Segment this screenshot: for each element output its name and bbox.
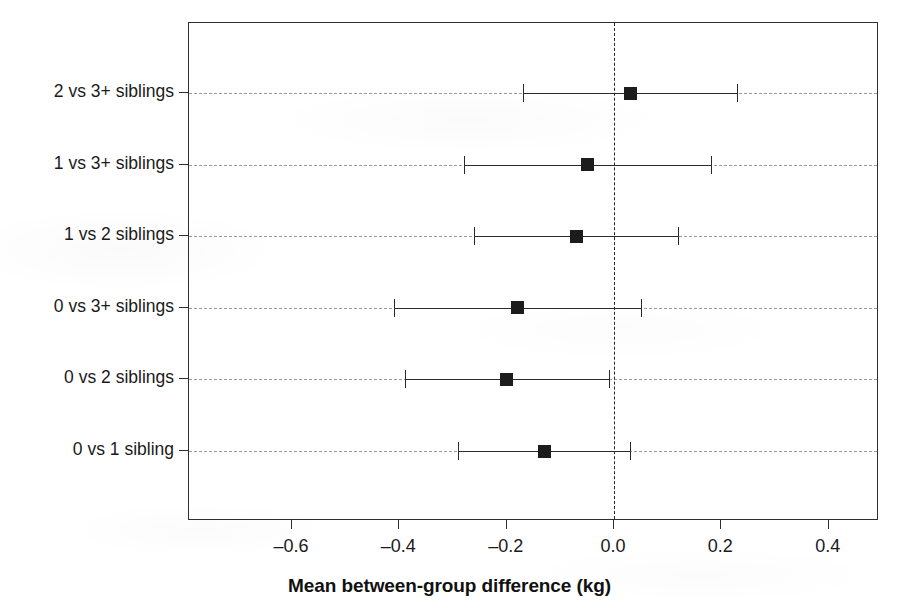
- x-axis-tick: [398, 520, 399, 529]
- ci-cap-low: [464, 156, 465, 174]
- x-axis-title: Mean between-group difference (kg): [0, 575, 899, 597]
- x-axis-tick: [506, 520, 507, 529]
- y-axis-category-label: 2 vs 3+ siblings: [54, 83, 174, 101]
- y-axis-category-label: 1 vs 3+ siblings: [54, 155, 174, 173]
- x-axis-tick-label: –0.2: [466, 537, 546, 555]
- ci-cap-high: [678, 227, 679, 245]
- forest-plot-figure: 2 vs 3+ siblings1 vs 3+ siblings1 vs 2 s…: [0, 0, 899, 615]
- y-axis-category-label: 0 vs 1 sibling: [73, 441, 174, 459]
- ci-cap-high: [641, 299, 642, 317]
- y-axis-tick: [179, 92, 188, 93]
- ci-cap-high: [609, 370, 610, 388]
- y-axis-tick: [179, 164, 188, 165]
- estimate-marker: [581, 158, 594, 171]
- y-axis-category-label: 1 vs 2 siblings: [64, 226, 174, 244]
- x-axis-tick-label: 0.0: [573, 537, 653, 555]
- ci-cap-high: [630, 442, 631, 460]
- ci-cap-low: [458, 442, 459, 460]
- ci-cap-low: [523, 84, 524, 102]
- y-axis-tick: [179, 307, 188, 308]
- ci-cap-low: [474, 227, 475, 245]
- x-axis-tick: [720, 520, 721, 529]
- y-axis-tick: [179, 450, 188, 451]
- x-axis-tick-label: 0.4: [788, 537, 868, 555]
- x-axis-tick-label: –0.4: [358, 537, 438, 555]
- x-axis-tick-label: 0.2: [680, 537, 760, 555]
- ci-cap-high: [711, 156, 712, 174]
- plot-area: [188, 22, 878, 520]
- zero-reference-line-stroke: [614, 23, 615, 519]
- estimate-marker: [500, 373, 513, 386]
- y-axis-tick: [179, 378, 188, 379]
- ci-cap-high: [737, 84, 738, 102]
- x-axis-tick: [828, 520, 829, 529]
- y-axis-tick: [179, 235, 188, 236]
- estimate-marker: [511, 301, 524, 314]
- y-axis-category-label: 0 vs 2 siblings: [64, 369, 174, 387]
- x-axis-tick-label: –0.6: [251, 537, 331, 555]
- ci-cap-low: [394, 299, 395, 317]
- estimate-marker: [570, 230, 583, 243]
- estimate-marker: [624, 87, 637, 100]
- x-axis-tick: [291, 520, 292, 529]
- y-axis-category-label: 0 vs 3+ siblings: [54, 298, 174, 316]
- x-axis-tick: [613, 520, 614, 529]
- estimate-marker: [538, 445, 551, 458]
- ci-cap-low: [405, 370, 406, 388]
